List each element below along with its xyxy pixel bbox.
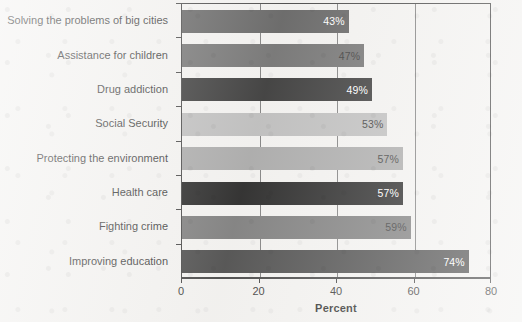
category-label: Protecting the environment [0,152,176,164]
category-label: Improving education [0,255,176,267]
bar-value-label: 59% [385,222,406,233]
category-axis: Solving the problems of big citiesAssist… [0,3,176,278]
bar: 57% [182,182,403,205]
category-label: Solving the problems of big cities [0,14,176,26]
category-label: Drug addiction [0,83,176,95]
bar-value-label: 74% [443,256,464,267]
x-tick-80 [490,278,491,283]
bar: 53% [182,113,387,136]
plot-area: 43%47%49%53%57%57%59%74% [181,3,491,278]
x-tick-label: 0 [178,285,184,297]
bar-value-label: 49% [347,84,368,95]
category-label: Assistance for children [0,49,176,61]
x-tick-60 [414,278,415,283]
bar-value-label: 47% [339,50,360,61]
bar-value-label: 57% [378,153,399,164]
bar: 74% [182,250,469,273]
bar: 43% [182,10,349,33]
category-label: Health care [0,186,176,198]
x-tick-40 [336,278,337,283]
plot-inner: 43%47%49%53%57%57%59%74% [182,4,490,277]
x-axis: Percent 020406080 [181,278,491,318]
bar: 47% [182,44,364,67]
x-tick-label: 60 [407,285,419,297]
gridline-60 [415,4,416,277]
x-tick-label: 80 [485,285,497,297]
bar-value-label: 43% [323,16,344,27]
bar-chart: Solving the problems of big citiesAssist… [0,0,522,322]
category-label: Fighting crime [0,220,176,232]
bar: 59% [182,216,411,239]
bar: 49% [182,78,372,101]
bar: 57% [182,147,403,170]
x-tick-20 [259,278,260,283]
x-tick-0 [181,278,182,283]
bar-value-label: 53% [362,119,383,130]
x-tick-label: 20 [252,285,264,297]
category-label: Social Security [0,117,176,129]
bar-value-label: 57% [378,188,399,199]
x-tick-label: 40 [330,285,342,297]
x-axis-title: Percent [181,302,491,314]
